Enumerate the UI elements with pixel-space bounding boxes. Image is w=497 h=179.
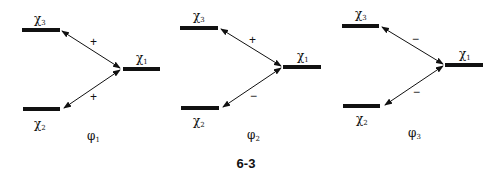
level-chi2: [343, 104, 380, 108]
label-chi2: χ2: [34, 117, 46, 132]
panel-phi2: χ3 χ1 χ2 + − φ2: [180, 9, 321, 143]
sign-bottom: −: [250, 89, 257, 103]
level-chi2: [23, 107, 60, 111]
sign-top: +: [249, 33, 256, 47]
orbital-interaction-diagram: χ3 χ1 χ2 + + φ1 χ3 χ1 χ2 + − φ2 χ3 χ1 χ2…: [0, 0, 497, 179]
label-chi2: χ2: [193, 114, 205, 129]
label-chi3: χ3: [34, 12, 46, 27]
panel-phi3: χ3 χ1 χ2 − − φ3: [342, 7, 483, 141]
level-chi1: [283, 65, 321, 69]
level-chi3: [22, 28, 60, 32]
label-chi1: χ1: [459, 47, 471, 62]
level-chi3: [180, 26, 218, 30]
label-chi3: χ3: [355, 7, 367, 22]
sign-top: +: [90, 35, 97, 49]
level-chi2: [181, 106, 219, 110]
label-phi1: φ1: [87, 129, 100, 144]
label-chi1: χ1: [136, 51, 148, 66]
level-chi3: [342, 24, 379, 28]
figure-caption: 6-3: [237, 156, 256, 171]
level-chi1: [123, 67, 160, 71]
sign-bottom: +: [90, 90, 97, 104]
sign-bottom: −: [413, 85, 420, 99]
sign-top: −: [412, 32, 419, 46]
label-phi2: φ2: [247, 128, 260, 143]
label-chi2: χ2: [356, 112, 368, 127]
panel-phi1: χ3 χ1 χ2 + + φ1: [22, 12, 160, 144]
label-phi3: φ3: [408, 126, 421, 141]
level-chi1: [445, 63, 483, 67]
label-chi3: χ3: [193, 9, 205, 24]
label-chi1: χ1: [297, 49, 309, 64]
